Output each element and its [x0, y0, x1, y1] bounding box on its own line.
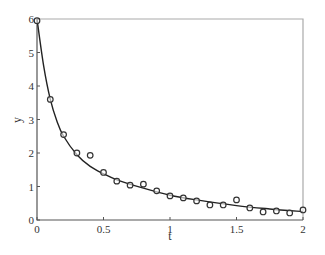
data-point-marker	[48, 97, 54, 103]
chart-container: 00.511.520123456 t y	[0, 0, 325, 255]
data-point-marker	[220, 202, 226, 208]
data-point-marker	[274, 208, 280, 214]
data-point-marker	[154, 188, 160, 194]
data-point-marker	[194, 198, 200, 204]
data-point-marker	[34, 18, 40, 24]
data-point-marker	[234, 197, 240, 203]
y-tick-label: 4	[29, 80, 35, 92]
data-point-marker	[87, 153, 93, 159]
plot-frame	[37, 19, 303, 220]
axis-ticks: 00.511.520123456	[29, 13, 306, 235]
data-point-marker	[260, 209, 266, 215]
y-tick-label: 6	[29, 13, 35, 25]
plot-svg: 00.511.520123456 t y	[0, 0, 325, 255]
fitted-curve	[37, 19, 303, 212]
data-point-marker	[207, 202, 213, 208]
y-tick-label: 5	[29, 47, 35, 59]
x-tick-label: 1.5	[230, 223, 244, 235]
data-point-marker	[74, 150, 80, 156]
data-point-marker	[167, 193, 173, 199]
axes-left-bottom	[37, 19, 303, 220]
y-tick-label: 3	[29, 114, 35, 126]
x-tick-label: 0.5	[97, 223, 111, 235]
data-point-marker	[287, 210, 293, 216]
data-point-marker	[141, 181, 147, 187]
data-point-marker	[300, 207, 306, 213]
y-tick-label: 2	[29, 147, 35, 159]
y-tick-label: 0	[29, 214, 35, 226]
data-point-marker	[181, 195, 187, 201]
data-point-marker	[114, 178, 120, 184]
fitted-curve-line	[37, 19, 303, 212]
data-point-marker	[127, 182, 133, 188]
x-tick-label: 2	[300, 223, 306, 235]
data-point-marker	[61, 132, 67, 138]
x-tick-label: 0	[34, 223, 40, 235]
y-axis-label: y	[10, 117, 24, 123]
data-points	[34, 18, 306, 216]
y-tick-label: 1	[29, 181, 35, 193]
data-point-marker	[247, 205, 253, 211]
data-point-marker	[101, 170, 107, 176]
frame-top-right	[37, 19, 303, 220]
